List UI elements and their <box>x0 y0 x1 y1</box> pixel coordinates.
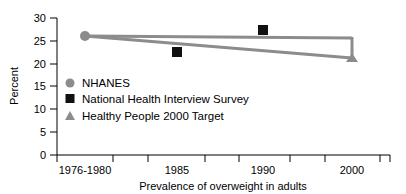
y-tick-label-25: 25 <box>34 35 46 47</box>
upper-trend-line <box>85 36 352 38</box>
x-tick-label-1990: 1990 <box>251 164 275 176</box>
y-tick-label-0: 0 <box>40 149 46 161</box>
marker-nhanes-1976-1980 <box>80 31 90 41</box>
marker-nhis-1990 <box>258 25 268 35</box>
overweight-prevalence-chart: 0 5 10 15 20 25 30 Percent 1976-1980 198… <box>0 0 406 194</box>
chart-container: 0 5 10 15 20 25 30 Percent 1976-1980 198… <box>0 0 406 194</box>
legend-label-nhanes: NHANES <box>82 77 130 89</box>
y-tick-label-10: 10 <box>34 103 46 115</box>
y-tick-label-20: 20 <box>34 58 46 70</box>
y-tick-label-15: 15 <box>34 80 46 92</box>
legend-label-hp2000-target: Healthy People 2000 Target <box>82 110 225 122</box>
marker-nhis-1985 <box>172 47 182 57</box>
x-tick-label-2000: 2000 <box>340 164 364 176</box>
legend-label-nhis: National Health Interview Survey <box>82 93 249 105</box>
legend-marker-square-icon <box>66 94 75 103</box>
x-axis-title: Prevalence of overweight in adults <box>139 180 307 192</box>
x-tick-label-1985: 1985 <box>165 164 189 176</box>
x-tick-label-1976-1980: 1976-1980 <box>59 164 112 176</box>
y-tick-label-5: 5 <box>40 126 46 138</box>
y-tick-label-30: 30 <box>34 12 46 24</box>
y-axis-title: Percent <box>8 67 20 105</box>
legend-marker-circle-icon <box>66 79 75 88</box>
